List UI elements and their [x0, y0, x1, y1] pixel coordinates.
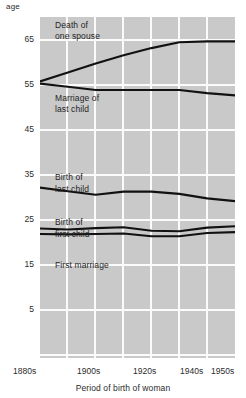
y-tick-label-65: 65 — [8, 34, 34, 44]
annotation-first-marriage: First marriage — [55, 260, 109, 271]
life-cycle-age-line-chart: age Death of one spouse Marriage of last… — [0, 0, 246, 398]
x-tick-label-1940s: 1940s — [180, 366, 203, 376]
annotation-birth-of-first-child-line2: first child — [55, 229, 90, 240]
annotation-death-of-one-spouse-line1: Death of — [55, 20, 88, 31]
y-axis-title: age — [6, 2, 20, 11]
y-tick-label-35: 35 — [8, 169, 34, 179]
annotation-marriage-of-last-child-line2: last child — [55, 104, 89, 115]
x-tick-label-1880s: 1880s — [13, 366, 36, 376]
series-line-death-of-one-spouse — [40, 41, 235, 81]
annotation-marriage-of-last-child-line1: Marriage of — [55, 93, 99, 104]
x-tick-label-1920s: 1920s — [133, 366, 156, 376]
plot-area: Death of one spouse Marriage of last chi… — [40, 17, 235, 358]
annotation-death-of-one-spouse-line2: one spouse — [55, 31, 100, 42]
y-tick-label-25: 25 — [8, 214, 34, 224]
annotation-birth-of-last-child-line1: Birth of — [55, 172, 83, 183]
x-tick-label-1900s: 1900s — [77, 366, 100, 376]
y-tick-label-5: 5 — [8, 304, 34, 314]
x-axis-title: Period of birth of woman — [0, 383, 246, 393]
annotation-birth-of-first-child-line1: Birth of — [55, 217, 83, 228]
y-tick-label-55: 55 — [8, 79, 34, 89]
y-tick-label-15: 15 — [8, 259, 34, 269]
x-tick-label-1950s: 1950s — [211, 366, 234, 376]
y-tick-label-45: 45 — [8, 124, 34, 134]
annotation-birth-of-last-child-line2: last child — [55, 184, 89, 195]
